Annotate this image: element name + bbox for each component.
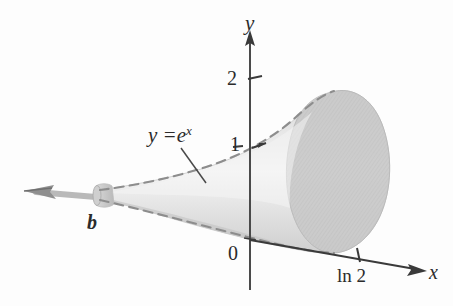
tail-end-ellipse	[93, 186, 101, 206]
solid-body	[98, 90, 390, 253]
curve-equation-base: e	[177, 123, 186, 147]
x-axis-arrowhead	[407, 264, 427, 276]
solid-of-revolution-diagram	[0, 0, 453, 306]
figure-container: y =ex b y x 2 1 0 ln 2	[0, 0, 453, 306]
curve-equation-label: y =ex	[148, 123, 192, 146]
y-tick-label-2: 2	[227, 68, 237, 88]
x-tick-label-ln2: ln 2	[337, 266, 366, 285]
curve-equation-exponent: x	[186, 123, 192, 138]
x-axis-label: x	[429, 262, 438, 282]
curve-equation-lhs: y =	[148, 123, 177, 147]
y-tick-label-1: 1	[230, 134, 240, 154]
left-tail-tube	[93, 184, 114, 207]
y-axis-label: y	[245, 13, 254, 34]
left-infinity-arrow	[24, 185, 96, 199]
origin-label: 0	[228, 243, 238, 263]
left-bound-label: b	[87, 212, 97, 232]
